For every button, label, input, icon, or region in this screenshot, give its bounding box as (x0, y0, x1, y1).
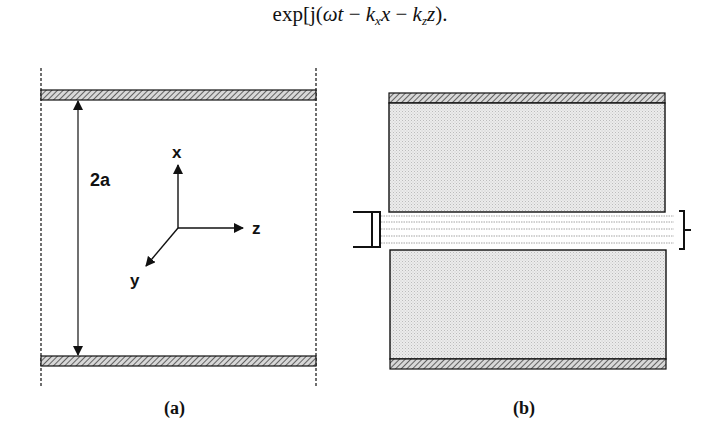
y-axis-arrow (146, 228, 178, 266)
x-axis-label: x (172, 143, 182, 162)
figure-svg: 2a x z y (a) (b) (0, 0, 720, 433)
cathode-source-icon (353, 212, 380, 247)
bottom-dielectric-block (390, 250, 666, 359)
bottom-metal-plate (390, 359, 666, 369)
top-dielectric-block (389, 103, 665, 212)
top-plate (41, 90, 316, 100)
figure-a-parallel-plate (41, 68, 316, 388)
caption-b: (b) (513, 398, 535, 419)
gap-label-2a: 2a (90, 170, 111, 190)
bottom-plate (41, 356, 316, 366)
beam-lines (381, 216, 674, 243)
y-axis-label: y (130, 271, 140, 290)
figure-b-dielectric-guide (353, 93, 691, 369)
collector-bracket-icon (679, 211, 691, 249)
z-axis-label: z (252, 219, 261, 238)
caption-a: (a) (164, 398, 185, 419)
top-metal-plate (389, 93, 665, 103)
